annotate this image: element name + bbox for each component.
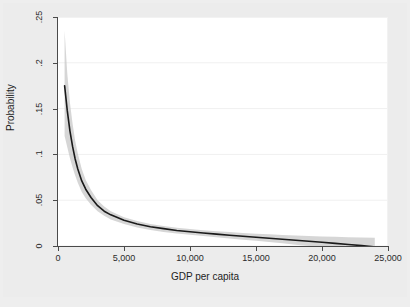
plot-svg: [58, 17, 388, 246]
x-axis-line: [57, 246, 389, 247]
y-tick-3: [53, 109, 57, 110]
y-tick-label-text-0: 0: [34, 243, 44, 248]
x-tick-label-4: 20,000: [308, 253, 336, 263]
x-tick-4: [322, 247, 323, 251]
x-tick-0: [58, 247, 59, 251]
y-tick-label-0: 0: [27, 240, 51, 252]
y-tick-label-text-1: .05: [34, 194, 44, 207]
x-tick-label-2: 10,000: [176, 253, 204, 263]
y-tick-5: [53, 17, 57, 18]
plot-area: [58, 17, 388, 246]
y-tick-label-2: .1: [27, 148, 51, 160]
y-tick-4: [53, 63, 57, 64]
chart-figure: 0.05.1.15.2.25 05,00010,00015,00020,0002…: [0, 0, 410, 307]
y-axis-title: Probability: [5, 84, 16, 131]
x-tick-3: [256, 247, 257, 251]
y-tick-2: [53, 154, 57, 155]
y-tick-label-4: .2: [27, 57, 51, 69]
y-tick-label-5: .25: [27, 11, 51, 23]
y-tick-label-text-2: .1: [34, 151, 44, 159]
y-tick-1: [53, 200, 57, 201]
y-tick-label-text-5: .25: [34, 11, 44, 24]
x-tick-label-5: 25,000: [374, 253, 402, 263]
y-axis-line: [57, 17, 58, 247]
y-tick-label-1: .05: [27, 194, 51, 206]
probability-line: [65, 86, 375, 246]
y-tick-label-text-4: .2: [34, 59, 44, 67]
x-axis-title: GDP per capita: [3, 271, 407, 282]
y-tick-label-3: .15: [27, 103, 51, 115]
y-tick-0: [53, 246, 57, 247]
x-tick-label-3: 15,000: [242, 253, 270, 263]
x-tick-1: [124, 247, 125, 251]
y-tick-label-text-3: .15: [34, 102, 44, 115]
chart-figure-inner: 0.05.1.15.2.25 05,00010,00015,00020,0002…: [3, 3, 407, 297]
x-tick-label-0: 0: [55, 253, 60, 263]
x-tick-5: [388, 247, 389, 251]
x-tick-label-1: 5,000: [113, 253, 136, 263]
x-tick-2: [190, 247, 191, 251]
